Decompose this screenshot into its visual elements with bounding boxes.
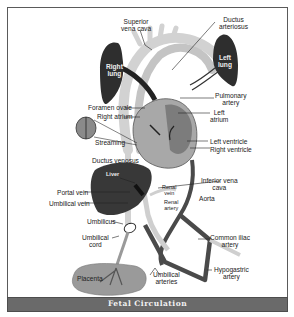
label-umbilicus: Umbilicus bbox=[87, 218, 116, 225]
label-right-ventricle: Right ventricle bbox=[210, 146, 252, 153]
label-ductus-venosus: Ductus venosus bbox=[92, 157, 139, 164]
label-streaming: Streaming bbox=[95, 139, 125, 146]
label-superior-vena-cava: Superior vena cava bbox=[121, 18, 151, 33]
label-foramen-ovale: Foramen ovale bbox=[88, 104, 132, 111]
label-right-atrium: Right atrium bbox=[97, 113, 133, 120]
label-hypogastric-artery: Hypogastric artery bbox=[214, 266, 249, 281]
umbilical-cord-shape bbox=[116, 232, 128, 268]
label-umbilical-arteries: Umbilical arteries bbox=[153, 271, 180, 286]
label-left-ventricle: Left ventricle bbox=[210, 138, 247, 145]
label-portal-vein: Portal vein bbox=[57, 189, 88, 196]
liver-shape bbox=[91, 163, 152, 216]
label-placenta: Placenta bbox=[77, 275, 103, 282]
label-renal-artery: Renal artery bbox=[164, 199, 178, 211]
label-umbilical-cord: Umbilical cord bbox=[82, 234, 109, 249]
label-ductus-arteriosus: Ductus arteriosus bbox=[219, 16, 248, 31]
label-liver: Liver bbox=[106, 171, 119, 178]
label-aorta: Aorta bbox=[199, 195, 215, 202]
label-inferior-vena-cava: Inferior vena cava bbox=[201, 177, 238, 192]
label-renal-vein: Renal vein bbox=[162, 184, 176, 196]
label-left-lung: Left lung bbox=[218, 54, 232, 69]
label-umbilical-vein: Umbilical vein bbox=[49, 200, 90, 207]
label-common-iliac-artery: Common iliac artery bbox=[210, 234, 250, 249]
fetal-circulation-diagram bbox=[0, 0, 294, 317]
label-left-atrium: Left atrium bbox=[210, 109, 228, 124]
label-right-lung: Right lung bbox=[106, 63, 123, 78]
figure-caption: Fetal Circulation bbox=[7, 297, 288, 312]
umbilicus-shape bbox=[123, 221, 138, 234]
label-pulmonary-artery: Pulmonary artery bbox=[215, 92, 247, 107]
